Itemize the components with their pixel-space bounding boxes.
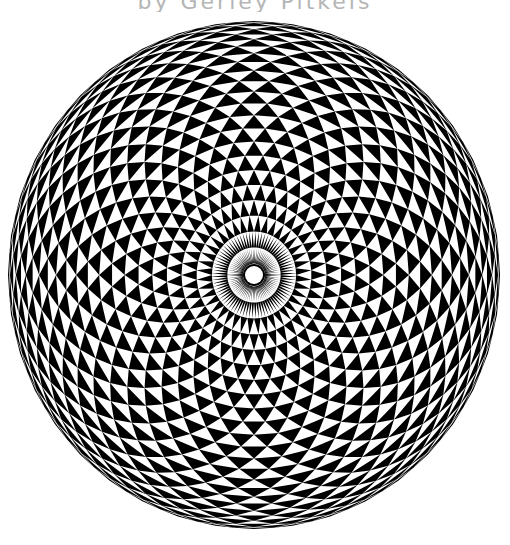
toroidal-sphere-pattern	[0, 0, 510, 545]
center-hub	[245, 266, 263, 284]
